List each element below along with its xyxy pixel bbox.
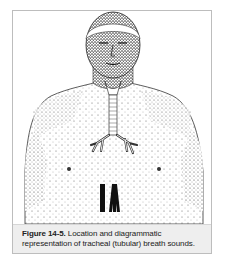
- figure-frame: Figure 14-5. Location and diagrammatic r…: [12, 10, 212, 254]
- figure-caption: Figure 14-5. Location and diagrammatic r…: [13, 224, 211, 253]
- tubular-sound-diagram: [99, 183, 123, 213]
- figure-label: Figure 14-5.: [22, 229, 66, 238]
- torso-illustration: [13, 11, 211, 224]
